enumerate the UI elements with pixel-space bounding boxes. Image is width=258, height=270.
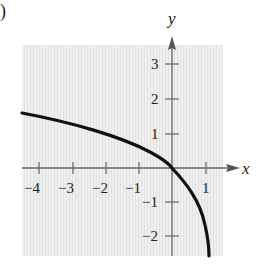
x-axis-label: x bbox=[242, 160, 250, 177]
x-tick-label: −2 bbox=[92, 181, 108, 196]
x-axis-arrow-icon bbox=[226, 164, 240, 172]
x-tick-label: −1 bbox=[125, 181, 141, 196]
plot-area bbox=[0, 0, 258, 270]
y-tick-label: 1 bbox=[151, 127, 159, 142]
y-axis-arrow-icon bbox=[168, 36, 176, 50]
x-tick-label: −3 bbox=[58, 181, 74, 196]
y-tick-label: 3 bbox=[151, 57, 159, 72]
y-tick-label: −2 bbox=[142, 229, 158, 244]
y-tick-label: −1 bbox=[142, 195, 158, 210]
y-axis-label: y bbox=[168, 10, 176, 27]
x-tick-label: 1 bbox=[202, 181, 210, 196]
y-tick-label: 2 bbox=[151, 92, 159, 107]
x-tick-label: −4 bbox=[24, 181, 40, 196]
grid-background bbox=[22, 45, 223, 256]
